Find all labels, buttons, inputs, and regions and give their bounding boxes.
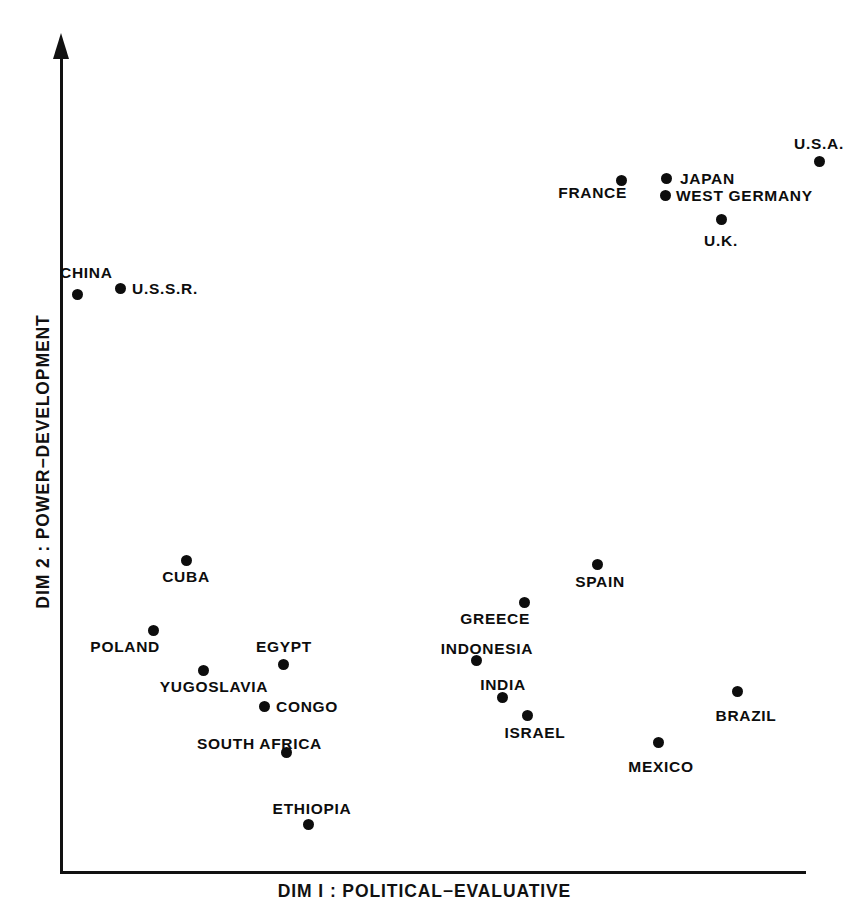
data-point-u-k	[716, 214, 727, 225]
data-point-label-cuba: CUBA	[162, 569, 210, 585]
data-point-ethiopia	[303, 819, 314, 830]
x-axis-title: DIM I : POLITICAL−EVALUATIVE	[0, 881, 849, 902]
data-point-brazil	[732, 686, 743, 697]
data-point-u-s-a	[814, 156, 825, 167]
data-point-mexico	[653, 737, 664, 748]
data-point-congo	[259, 701, 270, 712]
data-point-spain	[592, 559, 603, 570]
data-point-greece	[519, 597, 530, 608]
data-point-label-china: CHINA	[60, 265, 113, 281]
y-axis-line	[60, 55, 63, 873]
data-point-label-spain: SPAIN	[575, 574, 625, 590]
data-point-label-france: FRANCE	[558, 185, 627, 201]
data-point-egypt	[278, 659, 289, 670]
data-point-label-ethiopia: ETHIOPIA	[273, 801, 352, 817]
data-point-label-poland: POLAND	[90, 639, 160, 655]
data-point-label-south-africa: SOUTH AFRICA	[197, 736, 322, 752]
data-point-japan	[661, 173, 672, 184]
data-point-label-egypt: EGYPT	[256, 639, 312, 655]
data-point-label-india: INDIA	[480, 677, 526, 693]
data-point-yugoslavia	[198, 665, 209, 676]
data-point-label-yugoslavia: YUGOSLAVIA	[160, 679, 268, 695]
data-point-label-u-s-s-r: U.S.S.R.	[132, 281, 198, 297]
y-axis-title: DIM 2 : POWER−DEVELOPMENT	[33, 182, 54, 742]
data-point-label-congo: CONGO	[276, 699, 338, 715]
data-point-israel	[522, 710, 533, 721]
data-point-india	[497, 692, 508, 703]
scatter-plot-figure: DIM I : POLITICAL−EVALUATIVE DIM 2 : POW…	[0, 0, 849, 916]
data-point-u-s-s-r	[115, 283, 126, 294]
data-point-poland	[148, 625, 159, 636]
data-point-cuba	[181, 555, 192, 566]
data-point-label-u-s-a: U.S.A.	[794, 136, 844, 152]
x-axis-line	[60, 871, 806, 874]
data-point-label-indonesia: INDONESIA	[441, 641, 533, 657]
data-point-label-brazil: BRAZIL	[715, 708, 776, 724]
data-point-label-greece: GREECE	[460, 611, 530, 627]
data-point-label-u-k: U.K.	[704, 233, 738, 249]
data-point-label-west-germany: WEST GERMANY	[676, 188, 813, 204]
data-point-label-israel: ISRAEL	[504, 725, 565, 741]
data-point-west-germany	[660, 190, 671, 201]
data-point-label-mexico: MEXICO	[628, 759, 693, 775]
data-point-label-japan: JAPAN	[680, 171, 735, 187]
data-point-china	[72, 289, 83, 300]
